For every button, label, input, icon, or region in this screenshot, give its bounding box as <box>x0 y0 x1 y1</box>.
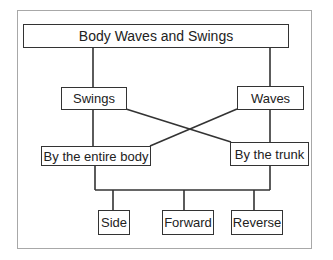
waves-box: Waves <box>237 86 304 110</box>
swings-box: Swings <box>61 87 127 110</box>
edge-swings-trunk <box>126 109 231 142</box>
trunk-box: By the trunk <box>230 142 309 166</box>
title-box: Body Waves and Swings <box>23 24 289 48</box>
reverse-box: Reverse <box>231 210 283 235</box>
side-box: Side <box>98 210 130 235</box>
forward-box: Forward <box>162 210 214 235</box>
entire-body-box: By the entire body <box>41 146 151 166</box>
